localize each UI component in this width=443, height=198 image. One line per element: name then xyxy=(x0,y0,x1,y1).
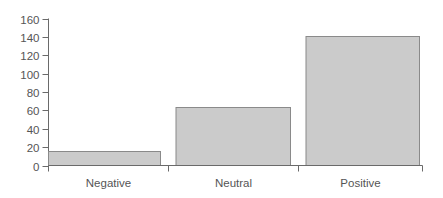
y-axis: 020406080100120140160 xyxy=(20,14,48,173)
bar-chart: 020406080100120140160 NegativeNeutralPos… xyxy=(0,0,443,198)
y-tick-label: 0 xyxy=(33,161,39,173)
y-tick-label: 40 xyxy=(27,124,40,136)
y-tick-label: 80 xyxy=(27,87,40,99)
bars xyxy=(49,37,420,166)
bar-neutral xyxy=(176,108,291,166)
x-tick-label-positive: Positive xyxy=(340,177,380,189)
bar-positive xyxy=(306,37,420,166)
bar-negative xyxy=(49,152,161,166)
x-tick-label-negative: Negative xyxy=(86,177,131,189)
x-tick-label-neutral: Neutral xyxy=(215,177,252,189)
y-tick-label: 20 xyxy=(27,142,40,154)
y-tick-label: 60 xyxy=(27,105,40,117)
y-tick-label: 140 xyxy=(20,32,39,44)
y-tick-label: 100 xyxy=(20,69,39,81)
y-tick-label: 160 xyxy=(20,14,39,26)
y-tick-label: 120 xyxy=(20,50,39,62)
x-axis: NegativeNeutralPositive xyxy=(49,166,423,190)
